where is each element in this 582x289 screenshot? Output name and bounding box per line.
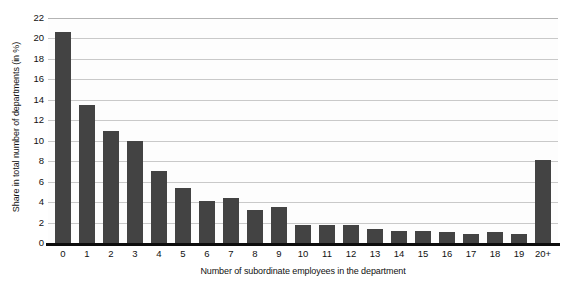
bar-slot	[243, 18, 267, 243]
x-axis-tick-label: 7	[219, 248, 243, 262]
bar	[271, 207, 286, 243]
x-axis-tick-label: 4	[147, 248, 171, 262]
x-axis-tick-label: 16	[435, 248, 459, 262]
x-axis-tick-label: 6	[195, 248, 219, 262]
x-axis-tick-label: 11	[315, 248, 339, 262]
bar-slot	[315, 18, 339, 243]
bar	[175, 188, 190, 243]
y-axis-tick-label: 10	[22, 136, 44, 146]
x-axis-tick-label: 13	[363, 248, 387, 262]
bar	[199, 201, 214, 243]
y-axis-tick-label: 6	[22, 177, 44, 187]
plot-area	[48, 18, 558, 243]
x-axis-tick-label: 14	[387, 248, 411, 262]
x-axis-tick-label: 10	[291, 248, 315, 262]
bar-slot	[531, 18, 555, 243]
bar	[127, 141, 142, 243]
x-axis-tick-label: 1	[75, 248, 99, 262]
bar	[55, 32, 70, 243]
x-axis-tick-label: 9	[267, 248, 291, 262]
bar	[535, 160, 550, 243]
y-axis-tick-label: 2	[22, 218, 44, 228]
bar-slot	[363, 18, 387, 243]
bar	[79, 105, 94, 243]
bar-slot	[171, 18, 195, 243]
x-axis-tick-label: 17	[459, 248, 483, 262]
x-axis-tick-label: 18	[483, 248, 507, 262]
bar	[223, 198, 238, 243]
bar	[103, 131, 118, 244]
bar-slot	[339, 18, 363, 243]
y-axis-tick-label: 14	[22, 95, 44, 105]
bar-slot	[267, 18, 291, 243]
bar-chart: Share in total number of departments (in…	[0, 0, 582, 289]
bar-slot	[219, 18, 243, 243]
x-axis-tick-label: 19	[507, 248, 531, 262]
x-axis-tick-label: 0	[51, 248, 75, 262]
y-axis-tick-label: 8	[22, 156, 44, 166]
bar-slot	[51, 18, 75, 243]
y-axis-tick-label: 18	[22, 54, 44, 64]
bar-slot	[411, 18, 435, 243]
bar-slot	[291, 18, 315, 243]
x-axis-tick-labels: 01234567891011121314151617181920+	[48, 248, 558, 262]
x-axis-tick-label: 12	[339, 248, 363, 262]
bar-slot	[387, 18, 411, 243]
y-axis-tick-label: 4	[22, 197, 44, 207]
bar	[295, 225, 310, 243]
bar-slot	[147, 18, 171, 243]
y-axis-title: Share in total number of departments (in…	[11, 7, 21, 247]
y-axis-tick-label: 20	[22, 34, 44, 44]
bar	[487, 232, 502, 243]
bar	[511, 234, 526, 243]
bar-slot	[75, 18, 99, 243]
bar	[151, 171, 166, 243]
y-axis-tick-label: 12	[22, 116, 44, 126]
bar	[343, 225, 358, 243]
x-axis-tick-label: 8	[243, 248, 267, 262]
bar-slot	[483, 18, 507, 243]
bar	[247, 210, 262, 243]
bar-series	[48, 18, 558, 243]
x-axis-tick-label: 2	[99, 248, 123, 262]
x-axis-tick-label: 3	[123, 248, 147, 262]
bar-slot	[195, 18, 219, 243]
bar-slot	[507, 18, 531, 243]
bar-slot	[99, 18, 123, 243]
y-axis-tick-label: 22	[22, 13, 44, 23]
bar	[391, 231, 406, 243]
bar	[415, 231, 430, 243]
bar-slot	[123, 18, 147, 243]
x-axis-line	[46, 243, 560, 246]
bar-slot	[459, 18, 483, 243]
bar	[367, 229, 382, 243]
y-axis-tick-label: 16	[22, 75, 44, 85]
bar	[463, 234, 478, 243]
bar	[319, 225, 334, 243]
bar	[439, 232, 454, 243]
x-axis-tick-label: 20+	[531, 248, 555, 262]
bar-slot	[435, 18, 459, 243]
y-axis-tick-label: 0	[22, 238, 44, 248]
y-axis-tick-labels: 0246810121416182022	[22, 0, 44, 289]
x-axis-title: Number of subordinate employees in the d…	[48, 266, 558, 277]
x-axis-tick-label: 15	[411, 248, 435, 262]
x-axis-tick-label: 5	[171, 248, 195, 262]
